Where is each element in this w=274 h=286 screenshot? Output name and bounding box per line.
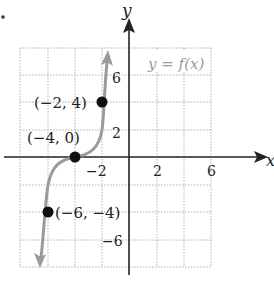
ytick-6: 6 <box>112 70 121 86</box>
ytick-2: 2 <box>112 125 121 141</box>
xtick-neg2: −2 <box>86 163 107 179</box>
point-label-neg6-neg4: (−6, −4) <box>55 204 120 222</box>
point-neg2-4 <box>97 97 108 108</box>
chart-title: y = f(x) <box>147 55 204 73</box>
y-axis-label: y <box>121 0 132 20</box>
point-neg4-0 <box>70 152 81 163</box>
function-graph: y x y = f(x) 6 2 −6 −2 2 6 (−2, 4) (−4, … <box>0 0 274 286</box>
xtick-2: 2 <box>153 163 162 179</box>
xtick-6: 6 <box>207 163 216 179</box>
x-axis-label: x <box>266 151 274 170</box>
point-label-neg4-0: (−4, 0) <box>27 129 80 147</box>
ytick-neg6: −6 <box>102 233 123 249</box>
point-neg6-neg4 <box>43 207 54 218</box>
point-label-neg2-4: (−2, 4) <box>34 94 87 112</box>
stray-dot <box>1 15 5 19</box>
